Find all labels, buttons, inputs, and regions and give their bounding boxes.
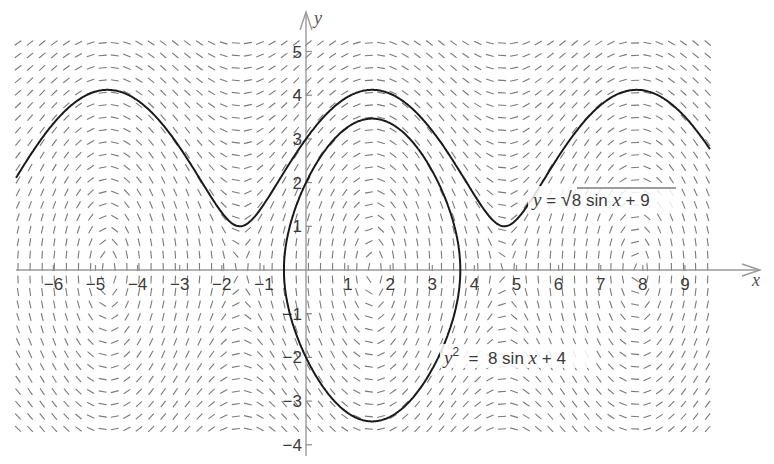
slope-mark [185, 90, 191, 96]
slope-mark [451, 53, 457, 58]
slope-mark [669, 401, 675, 407]
slope-mark [607, 66, 614, 70]
slope-mark [403, 164, 408, 170]
slope-mark [668, 90, 674, 95]
slope-mark [365, 316, 373, 318]
slope-mark [196, 66, 202, 71]
slope-mark [222, 301, 226, 308]
slope-mark [294, 115, 299, 121]
slope-mark [404, 313, 407, 321]
upper-label-radicand: 8 sin [572, 191, 613, 210]
slope-mark [281, 426, 287, 432]
slope-mark [256, 54, 263, 57]
slope-mark [173, 413, 178, 419]
slope-mark [63, 66, 69, 71]
slope-mark [377, 416, 385, 418]
slope-mark [403, 351, 407, 358]
slope-mark [560, 413, 565, 419]
slope-mark [548, 115, 553, 121]
slope-mark [88, 190, 94, 195]
slope-mark [149, 164, 153, 171]
slope-mark [51, 78, 57, 83]
slope-mark [681, 164, 685, 171]
slope-mark [560, 102, 565, 108]
slope-mark [111, 215, 118, 219]
slope-mark [548, 376, 552, 383]
slope-mark [149, 189, 153, 196]
slope-mark [695, 288, 696, 296]
slope-mark [414, 41, 421, 46]
slope-mark [510, 154, 518, 157]
slope-mark [428, 351, 431, 358]
slope-mark [111, 391, 119, 393]
slope-mark [210, 313, 213, 320]
slope-mark [136, 414, 142, 419]
slope-mark [124, 177, 130, 182]
slope-mark [220, 153, 227, 157]
slope-mark [342, 414, 348, 419]
slope-mark [111, 340, 118, 343]
slope-mark [163, 288, 164, 296]
slope-mark [17, 214, 20, 222]
slope-mark [150, 238, 151, 246]
slope-mark [415, 177, 419, 184]
slope-mark [256, 103, 263, 107]
slope-mark [429, 301, 431, 309]
slope-mark [658, 288, 660, 296]
slope-mark [680, 65, 686, 70]
slope-mark [174, 338, 177, 345]
slope-mark [464, 214, 467, 222]
slope-mark [27, 90, 33, 96]
slope-mark [342, 402, 348, 407]
slope-mark [656, 54, 663, 57]
slope-mark [244, 129, 252, 131]
slope-mark [353, 129, 360, 132]
slope-mark [525, 288, 527, 296]
slope-mark [547, 65, 553, 70]
slope-mark [184, 41, 190, 46]
slope-mark [402, 53, 409, 57]
slope-mark [271, 226, 273, 234]
slope-mark [52, 164, 56, 171]
slope-mark [162, 313, 164, 321]
slope-mark [99, 117, 107, 118]
slope-mark [184, 53, 190, 58]
slope-mark [197, 414, 203, 420]
slope-mark [15, 414, 21, 420]
slope-mark [317, 65, 323, 70]
slope-mark [185, 414, 190, 420]
slope-mark [199, 276, 200, 284]
slope-mark [560, 401, 565, 407]
slope-mark [416, 326, 419, 334]
slope-mark [656, 153, 662, 158]
slope-mark [87, 402, 94, 406]
slope-mark [256, 66, 263, 69]
slope-mark [620, 365, 627, 369]
slope-mark [111, 179, 119, 182]
slope-mark [682, 201, 685, 209]
slope-mark [439, 413, 444, 419]
slope-mark [210, 201, 214, 208]
slope-mark [439, 115, 444, 121]
slope-mark [464, 201, 467, 208]
slope-mark [404, 238, 406, 246]
slope-mark [209, 402, 215, 407]
slope-mark [644, 215, 650, 220]
slope-mark [706, 338, 709, 345]
slope-mark [232, 216, 240, 219]
slope-mark [620, 166, 627, 170]
slope-mark [197, 363, 201, 370]
slope-mark [15, 103, 21, 109]
slope-mark [269, 140, 275, 146]
slope-mark [330, 376, 335, 383]
slope-mark [209, 165, 214, 171]
slope-mark [644, 314, 650, 320]
slope-mark [498, 303, 506, 305]
slope-mark [163, 238, 164, 246]
slope-mark [391, 339, 396, 345]
slope-mark [705, 78, 711, 84]
slope-mark [671, 288, 672, 296]
slope-mark [510, 390, 518, 393]
slope-mark [523, 54, 530, 57]
slope-mark [29, 214, 31, 222]
